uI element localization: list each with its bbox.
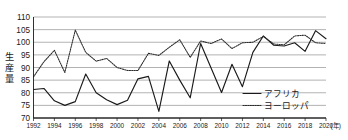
x-tick-label: 2002 — [131, 122, 146, 129]
chart-canvas: 707580859095100105110 生産量 19921994199619… — [0, 0, 348, 140]
x-axis-tick-labels: 1992199419961998200020022004200620082010… — [26, 122, 333, 129]
y-axis-title-char: 産 — [5, 62, 14, 73]
legend-label: ヨーロッパ — [264, 101, 309, 111]
x-tick-label: 2008 — [194, 122, 209, 129]
y-axis-tick-labels: 707580859095100105110 — [16, 13, 30, 123]
x-tick-label: 2014 — [256, 122, 271, 129]
x-axis-unit: (年) — [331, 121, 341, 130]
x-tick-label: 2000 — [110, 122, 125, 129]
y-axis-title-char: 生 — [5, 51, 14, 62]
y-tick-label: 90 — [21, 64, 31, 73]
x-tick-label: 2016 — [277, 122, 292, 129]
y-tick-label: 95 — [21, 51, 31, 60]
x-tick-label: 1998 — [89, 122, 104, 129]
x-tick-label: 2004 — [152, 122, 167, 129]
line-chart: 707580859095100105110 生産量 19921994199619… — [0, 0, 348, 140]
y-tick-label: 105 — [16, 26, 30, 35]
y-axis-title: 生産量 — [5, 51, 14, 83]
x-tick-label: 1992 — [26, 122, 41, 129]
series-line-2 — [34, 30, 327, 77]
x-axis-unit-label: (年) — [331, 121, 341, 130]
x-tick-label: 2010 — [214, 122, 229, 129]
y-tick-label: 110 — [17, 13, 30, 22]
x-tick-label: 2006 — [173, 122, 188, 129]
x-tick-label: 1994 — [47, 122, 62, 129]
y-tick-label: 80 — [21, 89, 31, 98]
x-tick-label: 2012 — [235, 122, 250, 129]
y-tick-label: 75 — [21, 101, 31, 110]
series-line-1 — [34, 31, 327, 112]
chart-legend: アフリカヨーロッパ — [243, 89, 309, 111]
x-tick-label: 2018 — [298, 122, 313, 129]
legend-label: アフリカ — [264, 89, 300, 99]
y-tick-label: 100 — [16, 38, 30, 47]
y-tick-label: 85 — [21, 76, 31, 85]
y-axis-title-char: 量 — [5, 74, 14, 84]
x-tick-label: 1996 — [68, 122, 83, 129]
